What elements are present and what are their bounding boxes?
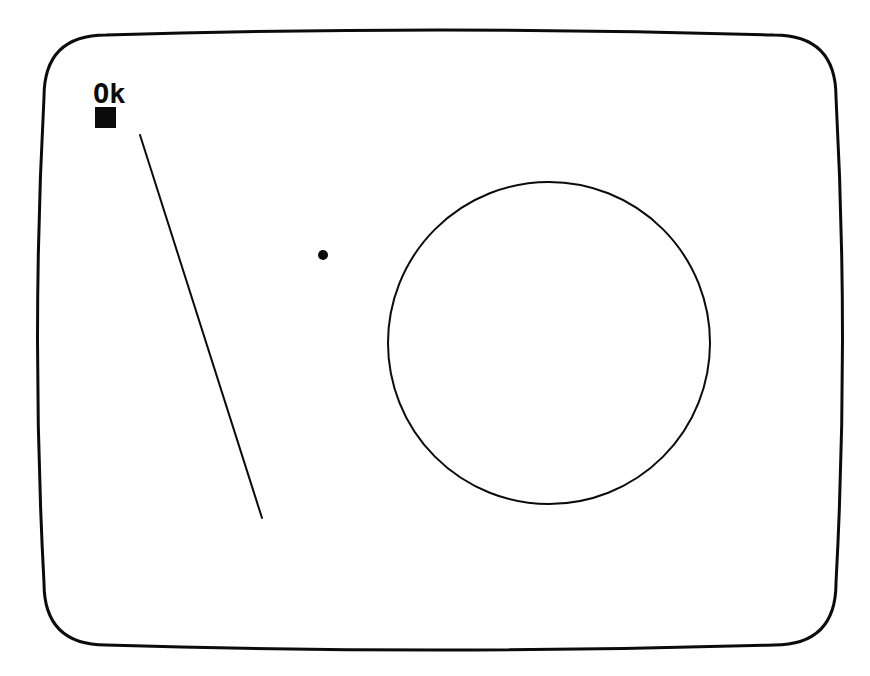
outline-circle	[388, 182, 710, 504]
terminal-prompt-text: Ok	[93, 80, 126, 107]
terminal-cursor-block[interactable]	[95, 107, 116, 128]
crt-canvas	[0, 0, 870, 676]
diagonal-line	[140, 135, 262, 518]
crt-screenshot-root: Ok	[0, 0, 870, 676]
crt-bezel-outline	[38, 30, 843, 650]
filled-dot	[318, 250, 328, 260]
